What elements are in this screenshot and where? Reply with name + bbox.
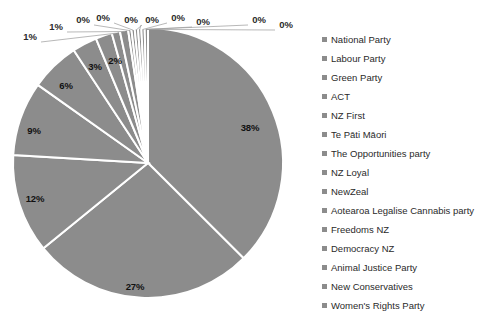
pie-percent-label: 0% bbox=[171, 12, 185, 23]
legend-marker-icon bbox=[322, 94, 327, 99]
pie-percent-label: 1% bbox=[23, 31, 37, 42]
legend-marker-icon bbox=[322, 113, 327, 118]
legend-item-label: Freedoms NZ bbox=[331, 220, 389, 239]
legend-item-label: ACT bbox=[331, 87, 350, 106]
legend-item[interactable]: Freedoms NZ bbox=[322, 220, 493, 239]
legend-item-label: Women's Rights Party bbox=[331, 296, 425, 315]
legend-item-label: Animal Justice Party bbox=[331, 258, 417, 277]
pie-percent-label: 9% bbox=[27, 125, 41, 136]
leader-line bbox=[67, 32, 124, 33]
legend-marker-icon bbox=[322, 170, 327, 175]
legend-marker-icon bbox=[322, 284, 327, 289]
pie-percent-label: 3% bbox=[88, 61, 102, 72]
legend-item[interactable]: Aotearoa Legalise Cannabis party bbox=[322, 201, 493, 220]
pie-percent-label: 2% bbox=[108, 55, 122, 66]
legend-item[interactable]: Te Pāti Māori bbox=[322, 125, 493, 144]
pie-percent-label: 0% bbox=[279, 19, 293, 30]
legend-item-label: Aotearoa Legalise Cannabis party bbox=[331, 201, 474, 220]
legend-marker-icon bbox=[322, 189, 327, 194]
legend-item[interactable]: Democracy NZ bbox=[322, 239, 493, 258]
legend-marker-icon bbox=[322, 37, 327, 42]
pie-percent-label: 0% bbox=[96, 12, 110, 23]
pie-percent-label: 0% bbox=[196, 16, 210, 27]
legend-item[interactable]: ACT bbox=[322, 87, 493, 106]
legend-item-label: NZ Loyal bbox=[331, 163, 369, 182]
pie-percent-label: 38% bbox=[241, 122, 260, 133]
leader-line bbox=[94, 25, 130, 31]
legend-marker-icon bbox=[322, 227, 327, 232]
legend-item-label: New Conservatives bbox=[331, 277, 413, 296]
legend-item-label: NZ First bbox=[331, 106, 365, 125]
pie-percent-label: 1% bbox=[49, 21, 63, 32]
pie-percent-label: 6% bbox=[59, 80, 73, 91]
legend-marker-icon bbox=[322, 246, 327, 251]
legend-item[interactable]: Animal Justice Party bbox=[322, 258, 493, 277]
pie-percent-label: 0% bbox=[76, 14, 90, 25]
pie-percent-label: 12% bbox=[26, 193, 45, 204]
legend-item-label: Labour Party bbox=[331, 49, 385, 68]
pie-chart-figure: 38%27%12%9%6%3%2%1%1%0%0%0%0%0%0%0%0% Na… bbox=[0, 0, 493, 333]
pie-percent-label: 27% bbox=[126, 281, 145, 292]
legend-item-label: National Party bbox=[331, 30, 391, 49]
legend-item[interactable]: Women's Rights Party bbox=[322, 296, 493, 315]
legend-marker-icon bbox=[322, 208, 327, 213]
pie-percent-label: 0% bbox=[252, 14, 266, 25]
legend-item[interactable]: New Conservatives bbox=[322, 277, 493, 296]
legend-marker-icon bbox=[322, 303, 327, 308]
legend-item[interactable]: NZ First bbox=[322, 106, 493, 125]
pie-percent-label: 0% bbox=[145, 14, 159, 25]
legend-item[interactable]: NZ Loyal bbox=[322, 163, 493, 182]
chart-legend: National PartyLabour PartyGreen PartyACT… bbox=[322, 30, 493, 315]
legend-item[interactable]: Labour Party bbox=[322, 49, 493, 68]
legend-marker-icon bbox=[322, 265, 327, 270]
legend-item-label: NewZeal bbox=[331, 182, 369, 201]
legend-marker-icon bbox=[322, 56, 327, 61]
legend-item-label: Democracy NZ bbox=[331, 239, 394, 258]
legend-marker-icon bbox=[322, 132, 327, 137]
legend-marker-icon bbox=[322, 75, 327, 80]
legend-item[interactable]: NewZeal bbox=[322, 182, 493, 201]
legend-item[interactable]: Green Party bbox=[322, 68, 493, 87]
legend-item[interactable]: The Opportunities party bbox=[322, 144, 493, 163]
legend-item-label: Green Party bbox=[331, 68, 382, 87]
legend-item[interactable]: National Party bbox=[322, 30, 493, 49]
legend-item-label: Te Pāti Māori bbox=[331, 125, 386, 144]
legend-item-label: The Opportunities party bbox=[331, 144, 430, 163]
pie-slice-group bbox=[13, 28, 283, 298]
pie-percent-label: 0% bbox=[124, 14, 138, 25]
legend-marker-icon bbox=[322, 151, 327, 156]
